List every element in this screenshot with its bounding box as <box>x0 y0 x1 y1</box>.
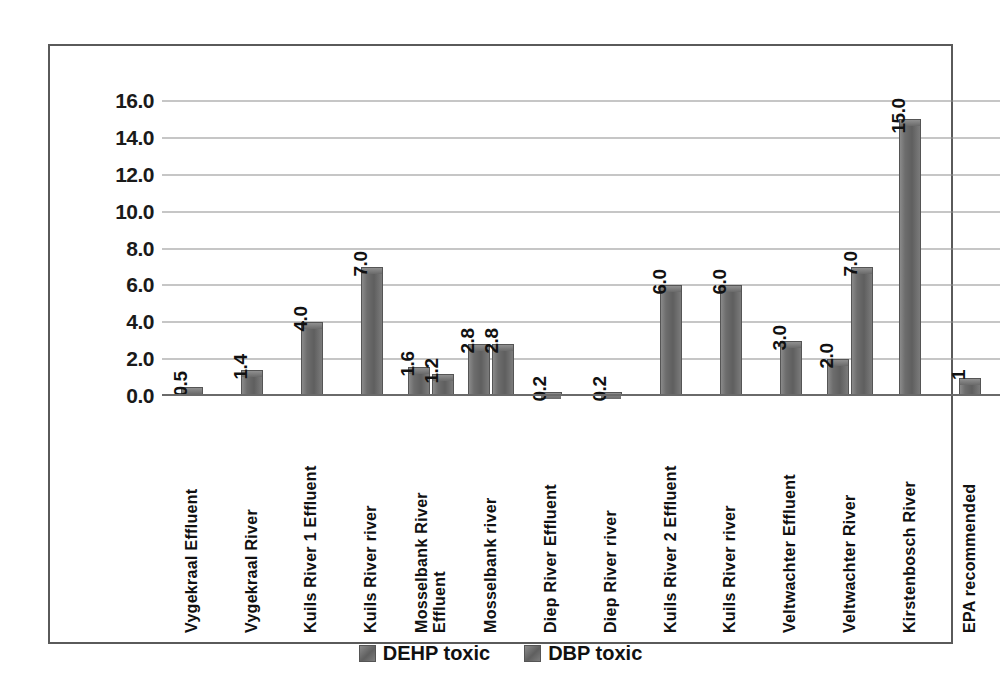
bar-value-label: 4.0 <box>290 307 312 332</box>
bar-group: 7.0 <box>342 101 402 396</box>
bar-value-label: 6.0 <box>649 270 671 295</box>
bar-value-label: 6.0 <box>709 270 731 295</box>
x-axis-category-label: Vygekraal River <box>243 398 261 633</box>
chart-screenshot: 0.02.04.06.08.010.012.014.016.0 0.51.44.… <box>0 0 1001 681</box>
bar-value-label: 2.8 <box>481 329 503 354</box>
bar: 1.2 <box>432 374 454 396</box>
y-axis-tick-label: 12.0 <box>115 163 154 187</box>
x-axis-category: Kuils River 1 Effluent <box>282 398 342 638</box>
x-axis-category: Vygekraal River <box>222 398 282 638</box>
bar-group: 6.0 <box>701 101 761 396</box>
y-axis-tick-label: 16.0 <box>115 89 154 113</box>
bar-value-label: 1.2 <box>421 358 443 383</box>
y-axis-tick-label: 0.0 <box>126 384 154 408</box>
legend-label: DEHP toxic <box>383 642 490 665</box>
bar-group: 2.07.0 <box>820 101 880 396</box>
bar-group: 4.0 <box>282 101 342 396</box>
bar-value-label: 3.0 <box>769 325 791 350</box>
bar: 6.0 <box>660 285 682 396</box>
x-axis-category: Kuils River river <box>342 398 402 638</box>
x-axis-category: Veltwachter River <box>820 398 880 638</box>
legend-item[interactable]: DBP toxic <box>524 642 642 665</box>
bar: 2.8 <box>492 344 514 396</box>
bar-value-label: 15.0 <box>888 99 910 134</box>
x-axis-category-label: Mosselbank River Effluent <box>413 398 450 633</box>
bar: 15.0 <box>899 119 921 396</box>
bar-group: 0.2 <box>521 101 581 396</box>
bar: 2.0 <box>827 359 849 396</box>
legend-label: DBP toxic <box>548 642 642 665</box>
x-axis-category: Diep River river <box>581 398 641 638</box>
y-axis-tick-label: 10.0 <box>115 200 154 224</box>
x-axis-category: Veltwachter Effluent <box>761 398 821 638</box>
bar-group: 0.2 <box>581 101 641 396</box>
y-axis-tick-label: 14.0 <box>115 126 154 150</box>
y-axis-tick-label: 4.0 <box>126 310 154 334</box>
plot-area: 0.02.04.06.08.010.012.014.016.0 0.51.44.… <box>100 101 1000 396</box>
x-axis-category: Kuils River 2 Effluent <box>641 398 701 638</box>
legend-swatch-icon <box>359 645 376 662</box>
bar-value-label: 7.0 <box>840 251 862 276</box>
x-axis-category-label: Kuils River river <box>362 398 380 633</box>
bar-value-label: 0.5 <box>170 371 192 396</box>
bar-group: 3.0 <box>761 101 821 396</box>
bar-group: 1.4 <box>222 101 282 396</box>
bar-group: 1.61.2 <box>401 101 461 396</box>
chart-frame: 0.02.04.06.08.010.012.014.016.0 0.51.44.… <box>48 44 953 644</box>
x-axis-category-label: Diep River Effluent <box>542 398 560 633</box>
bar-group: 0.5 <box>162 101 222 396</box>
bar-value-label: 1.6 <box>397 351 419 376</box>
bar: 1.4 <box>241 370 263 396</box>
legend-item[interactable]: DEHP toxic <box>359 642 490 665</box>
bar: 3.0 <box>780 341 802 396</box>
x-axis-category-labels: Vygekraal EffluentVygekraal RiverKuils R… <box>162 398 1000 638</box>
x-axis-category: EPA recommended <box>940 398 1000 638</box>
x-axis-category-label: Vygekraal Effluent <box>183 398 201 633</box>
y-axis: 0.02.04.06.08.010.012.014.016.0 <box>100 101 158 396</box>
x-axis-category: Kuils River river <box>701 398 761 638</box>
x-axis-category-label: EPA recommended <box>961 398 979 633</box>
x-axis-category-label: Diep River river <box>602 398 620 633</box>
bar-group: 1 <box>940 101 1000 396</box>
bar-value-label: 2.0 <box>816 344 838 369</box>
bar: 7.0 <box>851 267 873 396</box>
bar: 6.0 <box>720 285 742 396</box>
bar-group: 2.82.8 <box>461 101 521 396</box>
axis-baseline <box>162 394 1000 396</box>
x-axis-category-label: Kuils River 1 Effluent <box>302 398 320 633</box>
x-axis-category-label: Kirstenbosch River <box>901 398 919 633</box>
bar-group: 6.0 <box>641 101 701 396</box>
bar: 7.0 <box>361 267 383 396</box>
x-axis-category-label: Veltwachter Effluent <box>781 398 799 633</box>
x-axis-category-label: Veltwachter River <box>841 398 859 633</box>
y-axis-tick-label: 2.0 <box>126 347 154 371</box>
x-axis-category-label: Kuils River 2 Effluent <box>662 398 680 633</box>
legend-swatch-icon <box>524 645 541 662</box>
bar-value-label: 1 <box>948 370 970 380</box>
x-axis-category: Kirstenbosch River <box>880 398 940 638</box>
bar-group: 15.0 <box>880 101 940 396</box>
y-axis-tick-label: 6.0 <box>126 273 154 297</box>
bars-layer: 0.51.44.07.01.61.22.82.80.20.26.06.03.02… <box>162 101 1000 396</box>
bar-value-label: 7.0 <box>350 251 372 276</box>
y-axis-tick-label: 8.0 <box>126 237 154 261</box>
bar: 4.0 <box>301 322 323 396</box>
bar-value-label: 2.8 <box>457 329 479 354</box>
x-axis-category: Mosselbank river <box>461 398 521 638</box>
chart-legend: DEHP toxicDBP toxic <box>50 642 951 665</box>
x-axis-category: Diep River Effluent <box>521 398 581 638</box>
bar-value-label: 1.4 <box>230 355 252 380</box>
x-axis-category: Vygekraal Effluent <box>162 398 222 638</box>
x-axis-category-label: Kuils River river <box>721 398 739 633</box>
grid-area: 0.51.44.07.01.61.22.82.80.20.26.06.03.02… <box>162 101 1000 396</box>
x-axis-category: Mosselbank River Effluent <box>401 398 461 638</box>
x-axis-category-label: Mosselbank river <box>482 398 500 633</box>
